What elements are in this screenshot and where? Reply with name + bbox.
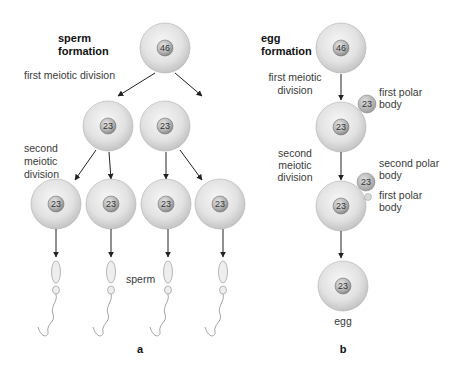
arrow <box>175 73 202 96</box>
svg-text:46: 46 <box>336 43 346 53</box>
second-polar-body-label-1: second polar <box>379 157 440 169</box>
egg-cell: 23 <box>318 261 368 311</box>
spermatid-3: 23 <box>141 179 191 229</box>
primary-spermatocyte: 46 <box>140 23 190 73</box>
first-meiotic-division-label-1: first meiotic <box>268 71 321 83</box>
egg-label: egg <box>334 315 352 327</box>
svg-text:23: 23 <box>106 199 116 209</box>
sperm-2 <box>93 261 116 336</box>
svg-text:23: 23 <box>338 281 348 291</box>
meiosis-diagram: sperm formation first meiotic division 4… <box>0 0 463 366</box>
first-polar-body-label2-2: body <box>379 201 403 213</box>
second-meiotic-division-label-1: second <box>24 142 58 154</box>
first-polar-body: 23 <box>358 95 376 113</box>
second-polar-body-label-2: body <box>379 169 403 181</box>
first-meiotic-division-label: first meiotic division <box>24 69 115 81</box>
svg-text:23: 23 <box>215 199 225 209</box>
sperm-4 <box>205 261 228 336</box>
arrow <box>109 152 111 179</box>
second-meiotic-division-label-3: division <box>24 168 59 180</box>
panel-a-sperm-formation: sperm formation first meiotic division 4… <box>24 23 245 355</box>
second-meiotic-division-label-1: second <box>278 147 312 159</box>
panel-b-egg-formation: egg formation 46 first meiotic division … <box>261 23 440 355</box>
ootid: 23 <box>316 181 366 231</box>
first-polar-body-label-1: first polar <box>379 86 423 98</box>
svg-text:23: 23 <box>361 177 371 187</box>
panel-b-label: b <box>340 343 347 355</box>
second-meiotic-division-label-2: meiotic <box>24 155 57 167</box>
first-polar-body-label-2: body <box>379 98 403 110</box>
sperm-1 <box>38 261 61 336</box>
secondary-spermatocyte-1: 23 <box>83 101 133 151</box>
first-polar-body-label2-1: first polar <box>379 189 423 201</box>
secondary-spermatocyte-2: 23 <box>140 101 190 151</box>
spermatid-2: 23 <box>86 179 136 229</box>
svg-text:23: 23 <box>103 121 113 131</box>
arrow <box>180 150 202 180</box>
svg-text:23: 23 <box>336 201 346 211</box>
secondary-oocyte: 23 <box>316 102 366 152</box>
svg-text:23: 23 <box>160 121 170 131</box>
second-polar-body: 23 <box>357 173 375 191</box>
spermatid-1: 23 <box>31 179 81 229</box>
first-meiotic-division-label-2: division <box>277 84 312 96</box>
second-meiotic-division-label-3: division <box>277 171 312 183</box>
sperm-label: sperm <box>126 273 155 285</box>
sperm-formation-title-1: sperm <box>58 32 91 44</box>
first-polar-body-remnant <box>365 194 372 201</box>
spermatid-4: 23 <box>195 179 245 229</box>
primary-oocyte: 46 <box>316 23 366 73</box>
arrow <box>118 73 155 96</box>
svg-text:46: 46 <box>160 43 170 53</box>
svg-text:23: 23 <box>336 122 346 132</box>
svg-text:23: 23 <box>362 99 372 109</box>
svg-text:23: 23 <box>51 199 61 209</box>
arrow <box>75 150 96 180</box>
svg-text:23: 23 <box>161 199 171 209</box>
egg-formation-title-1: egg <box>261 32 281 44</box>
sperm-formation-title-2: formation <box>58 45 109 57</box>
egg-formation-title-2: formation <box>261 45 312 57</box>
second-meiotic-division-label-2: meiotic <box>278 159 311 171</box>
panel-a-label: a <box>137 343 144 355</box>
